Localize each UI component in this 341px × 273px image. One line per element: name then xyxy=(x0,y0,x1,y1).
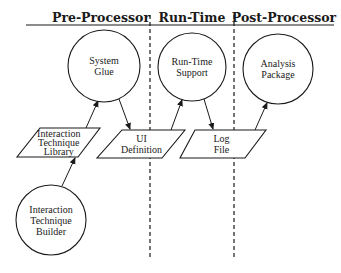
process-label: Package xyxy=(261,69,295,80)
arrow-log-file-to-analysis-package xyxy=(255,103,267,130)
process-label: Glue xyxy=(94,66,114,77)
process-run-time-support: Run-TimeSupport xyxy=(158,33,226,101)
process-analysis-package: AnalysisPackage xyxy=(243,34,313,104)
data-store-nodes: InteractionTechniqueLibraryUIDefinitionL… xyxy=(17,128,266,158)
arrow-system-glue-to-ui-definition xyxy=(119,99,130,129)
process-label: Run-Time xyxy=(172,56,213,67)
data-store-label: UI xyxy=(136,133,147,144)
arrow-run-time-support-to-log-file xyxy=(204,99,213,129)
data-store-label: File xyxy=(214,144,230,155)
arrow-interaction-technique-library-to-system-glue xyxy=(86,101,98,128)
data-store-log-file: LogFile xyxy=(180,130,266,158)
process-label: System xyxy=(89,55,119,66)
process-label: Support xyxy=(176,67,208,78)
process-label: Technique xyxy=(30,215,72,226)
data-flow-diagram: Pre-ProcessorRun-TimePost-Processor Syst… xyxy=(0,0,341,273)
arrow-interaction-technique-builder-to-interaction-technique-library xyxy=(62,158,75,186)
data-store-label: Definition xyxy=(121,144,162,155)
data-store-interaction-technique-library: InteractionTechniqueLibrary xyxy=(17,128,100,157)
stage-label-post-processor: Post-Processor xyxy=(232,10,337,25)
process-label: Analysis xyxy=(261,58,296,69)
data-store-label: Library xyxy=(44,146,74,157)
stage-labels: Pre-ProcessorRun-TimePost-Processor xyxy=(52,10,337,25)
data-store-label: Log xyxy=(213,133,229,144)
process-label: Interaction xyxy=(29,204,72,215)
arrow-ui-definition-to-run-time-support xyxy=(171,100,182,130)
stage-label-run-time: Run-Time xyxy=(159,10,226,25)
process-system-glue: SystemGlue xyxy=(68,30,140,102)
stage-label-pre-processor: Pre-Processor xyxy=(52,10,150,25)
process-interaction-technique-builder: InteractionTechniqueBuilder xyxy=(16,185,86,255)
data-store-ui-definition: UIDefinition xyxy=(97,130,185,158)
process-label: Builder xyxy=(36,226,67,237)
